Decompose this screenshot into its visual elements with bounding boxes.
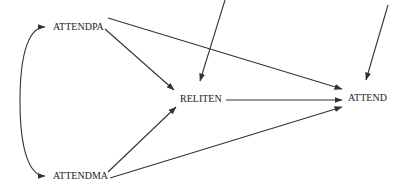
edge-attendpa-reliten bbox=[105, 29, 174, 90]
edge-attendpa-attend bbox=[108, 18, 342, 89]
node-attendpa: ATTENDPA bbox=[53, 21, 104, 33]
path-diagram: ATTENDPA ATTENDMA RELITEN ATTEND bbox=[0, 0, 408, 188]
node-attendma: ATTENDMA bbox=[53, 170, 108, 182]
edge-attendma-attend bbox=[110, 107, 342, 178]
node-attend: ATTEND bbox=[348, 92, 387, 104]
edge-disturbance-reliten bbox=[200, 0, 225, 81]
edge-attendma-reliten bbox=[108, 107, 176, 172]
node-reliten: RELITEN bbox=[180, 93, 222, 105]
edge-disturbance-attend bbox=[366, 5, 388, 80]
edge-covariance-attendpa-attendma bbox=[20, 27, 45, 176]
